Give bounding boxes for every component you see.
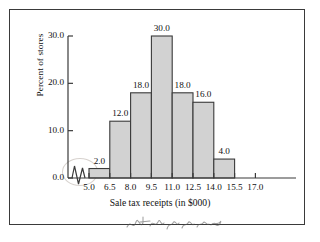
x-tick-label: 8.0 bbox=[125, 182, 136, 192]
x-tick-label: 14.0 bbox=[206, 182, 222, 192]
bar-value-label: 16.0 bbox=[195, 89, 211, 99]
x-tick-label: 12.5 bbox=[185, 182, 201, 192]
histogram-bar bbox=[214, 159, 235, 178]
x-tick-label: 15.5 bbox=[227, 182, 243, 192]
x-tick-label: 11.0 bbox=[164, 182, 180, 192]
histogram-bar bbox=[131, 93, 152, 178]
bar-value-label: 30.0 bbox=[154, 23, 170, 33]
bar-value-label: 18.0 bbox=[133, 80, 149, 90]
x-tick-label: 9.5 bbox=[146, 182, 157, 192]
x-axis-title: Sale tax receipts (in $000) bbox=[0, 197, 320, 208]
histogram-bar bbox=[89, 169, 110, 178]
x-tick-label: 5.0 bbox=[83, 182, 94, 192]
bar-value-label: 18.0 bbox=[175, 80, 191, 90]
x-tick-label: 6.5 bbox=[104, 182, 115, 192]
histogram-bar bbox=[172, 93, 193, 178]
bar-value-label: 2.0 bbox=[94, 156, 105, 166]
histogram-bar bbox=[110, 121, 131, 178]
x-tick-label: 17.0 bbox=[247, 182, 263, 192]
histogram-bar bbox=[151, 36, 172, 178]
figure-container: Percent of stores 0.0 10.0 20.0 30.0 5.0… bbox=[0, 0, 320, 242]
bar-value-label: 4.0 bbox=[218, 146, 229, 156]
histogram-bar bbox=[193, 102, 214, 178]
bar-value-label: 12.0 bbox=[112, 108, 128, 118]
